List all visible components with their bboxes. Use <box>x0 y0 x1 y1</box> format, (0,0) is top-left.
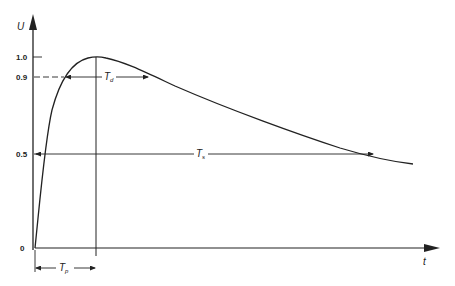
y-axis <box>29 14 37 250</box>
y-axis-label: U <box>17 21 25 32</box>
td-dimension: Td <box>66 71 148 83</box>
y-tick-0: 0 <box>20 244 25 253</box>
svg-text:Ts: Ts <box>196 148 205 160</box>
svg-text:Tp: Tp <box>59 262 69 274</box>
y-axis-arrow-icon <box>29 14 37 30</box>
ts-dimension: Ts <box>34 148 373 160</box>
y-tick-1.0: 1.0 <box>16 53 28 62</box>
impulse-waveform-diagram: U t 1.0 0.9 0.5 0 Td Ts Tp <box>0 0 455 286</box>
y-tick-0.9: 0.9 <box>16 73 28 82</box>
y-tick-0.5: 0.5 <box>16 150 28 159</box>
tp-subscript: p <box>64 268 69 274</box>
td-subscript: d <box>110 77 114 83</box>
x-axis-arrow-icon <box>424 244 440 252</box>
svg-text:Td: Td <box>104 71 114 83</box>
x-axis-label: t <box>423 256 427 267</box>
ts-subscript: s <box>202 154 205 160</box>
waveform-curve <box>35 57 413 248</box>
tp-dimension: Tp <box>35 250 95 274</box>
